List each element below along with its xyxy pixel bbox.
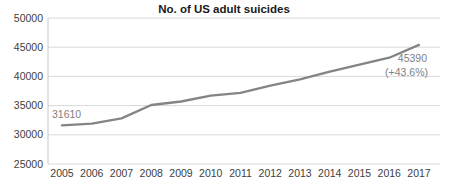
- start-value-annotation: 31610: [52, 108, 81, 120]
- us-adult-suicides-line-chart: No. of US adult suicides 250003000035000…: [0, 0, 449, 193]
- x-tick-2015: 2015: [348, 167, 372, 179]
- x-tick-2011: 2011: [229, 167, 252, 179]
- x-tick-2012: 2012: [259, 167, 283, 179]
- x-tick-2008: 2008: [140, 167, 164, 179]
- x-tick-2017: 2017: [407, 167, 431, 179]
- x-tick-2009: 2009: [169, 167, 193, 179]
- x-tick-2007: 2007: [110, 167, 134, 179]
- end-change-annotation: (+43.6%): [385, 66, 428, 78]
- y-axis-tick-labels: 250003000035000400004500050000: [14, 12, 43, 170]
- y-tick-50000: 50000: [14, 12, 43, 24]
- y-tick-40000: 40000: [14, 70, 43, 82]
- x-tick-2006: 2006: [80, 167, 104, 179]
- x-tick-2005: 2005: [50, 167, 74, 179]
- data-line-series: [62, 45, 419, 126]
- y-tick-25000: 25000: [14, 158, 43, 170]
- y-tick-30000: 30000: [14, 128, 43, 140]
- y-tick-45000: 45000: [14, 41, 43, 53]
- x-tick-2016: 2016: [378, 167, 402, 179]
- end-value-annotation: 45390: [398, 52, 427, 64]
- x-tick-2010: 2010: [199, 167, 223, 179]
- chart-canvas: No. of US adult suicides 250003000035000…: [0, 0, 449, 193]
- chart-title: No. of US adult suicides: [158, 3, 290, 15]
- x-tick-2013: 2013: [288, 167, 312, 179]
- y-tick-35000: 35000: [14, 99, 43, 111]
- x-tick-2014: 2014: [318, 167, 342, 179]
- x-axis-tick-labels: 2005200620072008200920102011201220132014…: [50, 167, 431, 179]
